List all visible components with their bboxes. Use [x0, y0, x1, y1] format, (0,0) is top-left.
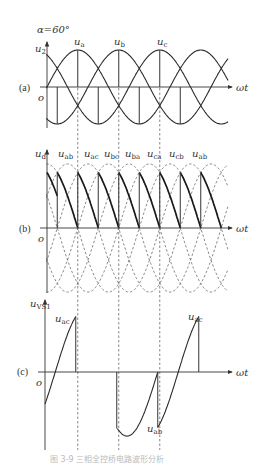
label-uac-left: uac [55, 313, 70, 326]
panel-b-x-label: ωt [236, 223, 249, 234]
svg-text:uba: uba [125, 148, 140, 161]
panel-b-y-label: ud [35, 148, 46, 161]
panel-b: ud (b) o ωt uab uac ubc uba uca ucb uab [19, 148, 249, 293]
alpha-label: α=60° [37, 24, 70, 35]
panel-c-y-label: uVS1 [30, 298, 51, 311]
ud-segment [139, 173, 160, 229]
svg-text:uab: uab [192, 148, 208, 161]
line-voltage-labels: uab uac ubc uba uca ucb uab [58, 148, 208, 161]
svg-text:uac: uac [84, 148, 99, 161]
origin-label-b: o [38, 233, 44, 244]
ud-segment [98, 173, 119, 229]
panel-a-x-label: ωt [236, 82, 249, 93]
panel-b-tag: (b) [19, 223, 31, 235]
panel-c-x-label: ωt [236, 367, 249, 378]
label-ua: ua [74, 36, 85, 49]
ud-segment [57, 173, 78, 229]
svg-text:ubc: ubc [104, 148, 119, 161]
label-uc: uc [157, 36, 167, 49]
panel-a: α=60° u2 (a) o ωt ua ub uc [19, 24, 249, 128]
figure-caption: 图 3-9 三相全控桥电路波形分析 [50, 454, 164, 464]
ud-segment [78, 173, 99, 229]
dashed-guide-lines [78, 88, 160, 450]
panel-a-y-label: u2 [35, 43, 46, 56]
panel-c-tag: (c) [17, 366, 28, 378]
waveform-figure: α=60° u2 (a) o ωt ua ub uc ud (b) o ωt u… [0, 0, 264, 464]
label-uab: uab [147, 423, 163, 436]
panel-c: uVS1 (c) o ωt uac uab uac [17, 298, 249, 450]
ud-segment [119, 173, 140, 229]
ud-segment [160, 173, 181, 229]
label-ub: ub [114, 36, 125, 49]
uvs1-uac-segment [45, 317, 76, 405]
origin-label-c: o [36, 377, 42, 388]
origin-label-a: o [38, 92, 44, 103]
ud-segment [201, 173, 222, 229]
panel-a-tag: (a) [19, 82, 30, 94]
svg-text:ucb: ucb [169, 148, 184, 161]
ud-segment [180, 173, 201, 229]
svg-text:uab: uab [58, 148, 74, 161]
svg-text:uca: uca [147, 148, 162, 161]
thyristor-voltage-curve [45, 317, 199, 437]
